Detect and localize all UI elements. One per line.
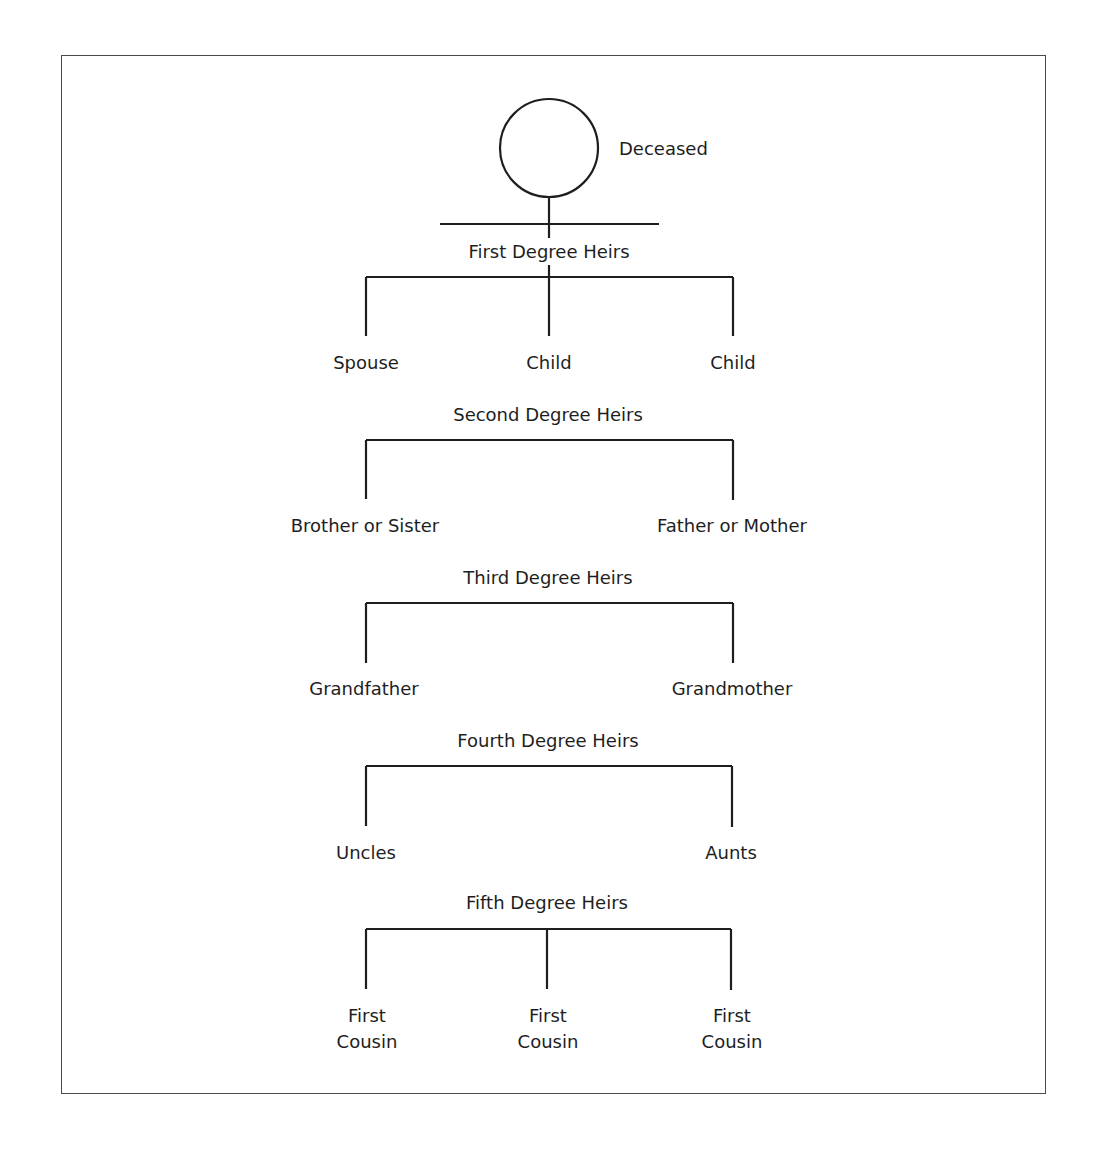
heir-spouse: Spouse: [333, 350, 399, 376]
heir-father-or-mother: Father or Mother: [657, 513, 807, 539]
first-cousin-line1: First: [337, 1003, 398, 1029]
first-cousin-line1: First: [518, 1003, 579, 1029]
heir-child-2: Child: [710, 350, 755, 376]
heir-aunts: Aunts: [705, 840, 757, 866]
first-degree-title: First Degree Heirs: [468, 239, 629, 265]
heir-first-cousin-1: First Cousin: [337, 1003, 398, 1055]
fourth-degree-title: Fourth Degree Heirs: [457, 728, 638, 754]
heir-grandfather: Grandfather: [309, 676, 419, 702]
first-cousin-line2: Cousin: [518, 1029, 579, 1055]
first-cousin-line2: Cousin: [337, 1029, 398, 1055]
heir-first-cousin-3: First Cousin: [702, 1003, 763, 1055]
heir-child-1: Child: [526, 350, 571, 376]
second-degree-title: Second Degree Heirs: [453, 402, 643, 428]
heir-grandmother: Grandmother: [672, 676, 793, 702]
heir-brother-or-sister: Brother or Sister: [291, 513, 440, 539]
first-cousin-line1: First: [702, 1003, 763, 1029]
deceased-label: Deceased: [619, 136, 708, 162]
heir-first-cousin-2: First Cousin: [518, 1003, 579, 1055]
first-cousin-line2: Cousin: [702, 1029, 763, 1055]
heir-uncles: Uncles: [336, 840, 396, 866]
third-degree-title: Third Degree Heirs: [463, 565, 632, 591]
fifth-degree-title: Fifth Degree Heirs: [466, 890, 628, 916]
deceased-circle: [500, 99, 598, 197]
